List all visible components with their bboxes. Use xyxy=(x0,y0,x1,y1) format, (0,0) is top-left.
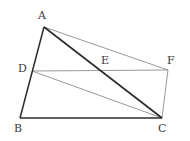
vertex-label-C: C xyxy=(158,123,166,134)
geometry-canvas xyxy=(0,0,190,141)
segment-FC xyxy=(162,70,168,118)
light-segments xyxy=(32,27,168,118)
vertex-label-B: B xyxy=(14,123,22,134)
dark-segments xyxy=(20,27,162,118)
vertex-label-F: F xyxy=(167,55,175,66)
vertex-label-D: D xyxy=(18,63,27,74)
vertex-label-A: A xyxy=(38,10,46,21)
vertex-label-E: E xyxy=(101,55,109,66)
geometry-figure: A B C D E F xyxy=(0,0,190,141)
segment-DC xyxy=(32,71,162,118)
segment-AC xyxy=(44,27,162,118)
